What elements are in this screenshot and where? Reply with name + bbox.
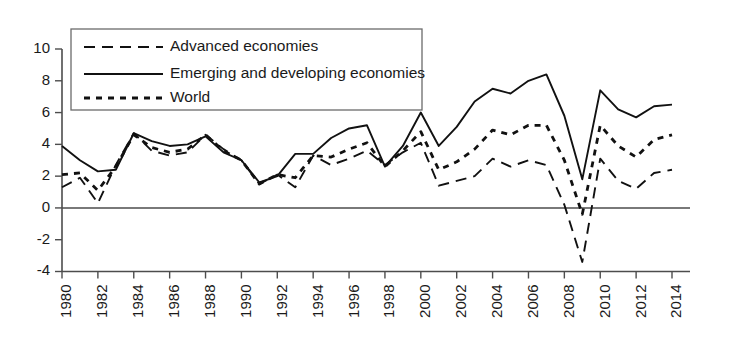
x-tick-label: 1990 <box>237 285 254 318</box>
x-tick-label: 1980 <box>57 285 74 318</box>
x-tick-label: 1988 <box>201 285 218 318</box>
x-tick-label: 2014 <box>667 285 684 318</box>
legend-label-0: Advanced economies <box>170 37 318 54</box>
line-chart: -4-20246810 1980198219841986198819901992… <box>0 0 733 352</box>
series-line-0 <box>62 133 672 262</box>
y-tick-label: 8 <box>42 71 50 88</box>
x-tick-label: 1994 <box>309 285 326 318</box>
chart-container: -4-20246810 1980198219841986198819901992… <box>0 0 733 352</box>
y-tick-label: 0 <box>42 198 50 215</box>
y-tick-label: 6 <box>42 103 50 120</box>
x-tick-label: 2012 <box>632 285 649 318</box>
y-tick-group: -4-20246810 <box>33 39 62 279</box>
x-tick-label: 2000 <box>416 285 433 318</box>
x-tick-label: 1984 <box>129 285 146 318</box>
x-tick-label: 1998 <box>380 285 397 318</box>
x-tick-label: 2006 <box>524 285 541 318</box>
x-axis-group: 1980198219841986198819901992199419961998… <box>57 272 690 318</box>
x-tick-label: 2002 <box>452 285 469 318</box>
x-tick-label: 1996 <box>345 285 362 318</box>
y-tick-label: 4 <box>42 134 50 151</box>
x-tick-label: 2004 <box>488 285 505 318</box>
chart-legend: Advanced economiesEmerging and developin… <box>71 29 425 110</box>
x-tick-label: 1986 <box>165 285 182 318</box>
legend-label-1: Emerging and developing economies <box>170 64 425 81</box>
x-tick-label: 2010 <box>596 285 613 318</box>
x-tick-group: 1980198219841986198819901992199419961998… <box>57 272 684 318</box>
y-tick-label: -4 <box>37 261 50 278</box>
x-tick-label: 1982 <box>93 285 110 318</box>
y-tick-label: 10 <box>33 39 50 56</box>
y-axis-group: -4-20246810 <box>33 39 62 279</box>
legend-label-2: World <box>170 88 210 105</box>
y-tick-label: -2 <box>37 230 50 247</box>
x-tick-label: 2008 <box>560 285 577 318</box>
x-tick-label: 1992 <box>273 285 290 318</box>
y-tick-label: 2 <box>42 166 50 183</box>
